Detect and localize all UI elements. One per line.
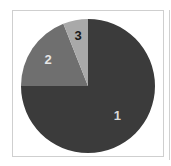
chart-canvas: 1 2 3 (0, 0, 171, 166)
slice-label-1: 1 (114, 109, 121, 122)
pie-chart (0, 0, 171, 166)
slice-label-2: 2 (44, 52, 51, 65)
slice-label-3: 3 (75, 28, 82, 41)
